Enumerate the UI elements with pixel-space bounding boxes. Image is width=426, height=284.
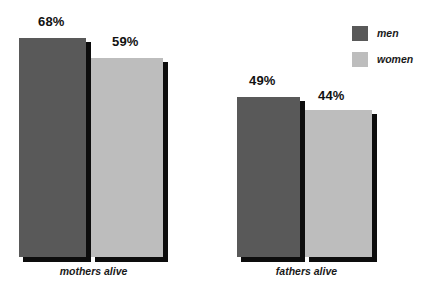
bar-mothers-women[interactable] (91, 58, 163, 257)
value-label-mothers-men: 68% (38, 14, 65, 29)
bar-fathers-men[interactable] (237, 97, 300, 257)
bar-shadow-corner (163, 257, 168, 262)
category-label-fathers-alive: fathers alive (235, 265, 378, 277)
bar-shadow-bottom (95, 257, 167, 262)
legend: men women (352, 24, 413, 76)
legend-swatch-women-icon (352, 52, 368, 67)
bar-shadow-bottom (309, 257, 376, 262)
legend-label-women: women (377, 53, 413, 65)
bar-shadow-right (163, 62, 168, 261)
bar-shadow-right (372, 114, 377, 261)
bar-shadow-bottom (23, 257, 90, 262)
bar-shadow-bottom (241, 257, 304, 262)
bar-mothers-men[interactable] (19, 38, 86, 257)
value-label-fathers-women: 44% (318, 88, 345, 103)
bar-fathers-women[interactable] (305, 110, 372, 257)
bar-face-women (91, 58, 163, 257)
bar-face-men (237, 97, 300, 257)
bar-face-women (305, 110, 372, 257)
bar-face-men (19, 38, 86, 257)
legend-item-women[interactable]: women (352, 50, 413, 68)
bar-shadow-corner (300, 257, 305, 262)
value-label-fathers-men: 49% (249, 73, 276, 88)
bar-shadow-corner (372, 257, 377, 262)
legend-swatch-men-icon (352, 26, 368, 41)
category-label-mothers-alive: mothers alive (19, 265, 168, 277)
legend-item-men[interactable]: men (352, 24, 413, 42)
value-label-mothers-women: 59% (112, 34, 139, 49)
legend-label-men: men (377, 27, 399, 39)
bar-chart: 68% 59% mothers alive 49% 44% fathers al… (0, 0, 426, 284)
bar-shadow-corner (86, 257, 91, 262)
